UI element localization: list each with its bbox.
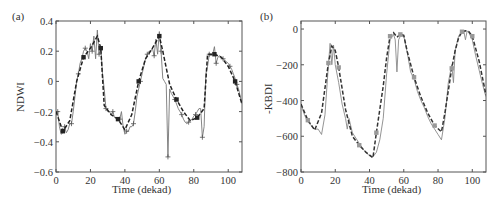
y-axis-title-b: -KBDI: [262, 83, 274, 114]
square-marker: [374, 130, 378, 134]
square-marker: [470, 34, 474, 38]
square-marker: [432, 123, 436, 127]
plus-marker: [165, 154, 170, 159]
square-marker: [212, 52, 216, 56]
square-marker: [450, 66, 454, 70]
plus-marker: [131, 121, 136, 126]
y-tick-label: 0.4: [40, 16, 54, 27]
square-marker: [388, 34, 392, 38]
plus-marker: [200, 135, 205, 140]
x-axis-title-a: Time (dekad): [112, 183, 171, 195]
square-marker: [81, 55, 85, 59]
ndwi-chart: 020406080100−0.6−0.4−0.200.20.4: [0, 0, 250, 208]
y-tick-label: −600: [276, 131, 298, 142]
y-tick-label: −0.4: [34, 137, 54, 148]
x-axis-title-b: Time (dekad): [362, 183, 421, 195]
plot-frame: [56, 21, 242, 172]
x-tick-label: 100: [220, 175, 236, 186]
square-marker: [157, 34, 161, 38]
y-tick-label: −0.6: [34, 167, 53, 178]
raw-series-line: [301, 31, 486, 157]
x-tick-label: 0: [53, 175, 58, 186]
y-tick-label: −200: [276, 60, 298, 71]
kbdi-chart: 020406080100−800−600−400−2000: [250, 0, 501, 208]
square-marker: [398, 32, 402, 36]
y-tick-label: −400: [276, 96, 298, 107]
square-marker: [174, 97, 178, 101]
chart-panel-b: 020406080100−800−600−400−2000 (b) Time (…: [250, 0, 501, 208]
square-marker: [195, 115, 199, 119]
square-marker: [357, 143, 361, 147]
panel-label-a: (a): [12, 10, 24, 22]
raw-series-line: [56, 30, 242, 157]
plot-frame: [301, 21, 486, 172]
x-tick-label: 0: [298, 175, 303, 186]
square-marker: [116, 117, 120, 121]
plus-marker: [83, 46, 88, 51]
square-marker: [136, 79, 140, 83]
y-tick-label: −800: [276, 167, 298, 178]
square-marker: [306, 118, 310, 122]
y-tick-label: 0: [48, 76, 53, 87]
plus-marker: [214, 61, 219, 66]
square-marker: [412, 75, 416, 79]
square-marker: [99, 46, 103, 50]
square-marker: [460, 30, 464, 34]
chart-panel-a: 020406080100−0.6−0.4−0.200.20.4 (a) Time…: [0, 0, 250, 208]
y-tick-label: −0.2: [34, 107, 53, 118]
y-tick-label: 0: [293, 24, 298, 35]
y-axis-title-a: NDWI: [14, 82, 26, 112]
plus-marker: [179, 112, 184, 117]
x-tick-label: 20: [330, 175, 341, 186]
plus-marker: [152, 53, 157, 58]
x-tick-label: 100: [464, 175, 480, 186]
x-tick-label: 80: [189, 175, 200, 186]
x-tick-label: 20: [85, 175, 96, 186]
square-marker: [336, 65, 340, 69]
x-tick-label: 80: [433, 175, 444, 186]
square-marker: [233, 79, 237, 83]
smoothed-series-line: [301, 31, 486, 158]
square-marker: [61, 129, 65, 133]
square-marker: [326, 61, 330, 65]
y-tick-label: 0.2: [40, 46, 53, 57]
panel-label-b: (b): [260, 10, 273, 22]
